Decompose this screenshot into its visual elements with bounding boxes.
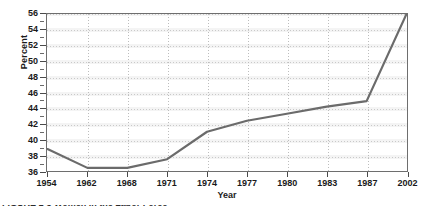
x-tick-mark [247,172,248,177]
y-axis-tick-labels: 3638404244464850525456 [18,13,38,172]
x-tick-label: 1977 [237,178,257,188]
x-axis-title: Year [46,190,408,200]
line-series [47,14,407,171]
series-polyline [47,14,406,168]
y-tick-label: 40 [28,135,38,145]
y-tick-mark-minor [40,116,44,117]
x-tick-label: 1987 [357,178,377,188]
y-tick-mark-minor [40,164,44,165]
y-tick-mark-minor [40,100,44,101]
y-tick-mark-minor [40,53,44,54]
y-tick-label: 36 [28,167,38,177]
x-tick-mark [87,172,88,177]
y-tick-label: 46 [28,88,38,98]
y-tick-mark-minor [40,21,44,22]
y-tick-mark-minor [40,132,44,133]
x-tick-label: 1980 [277,178,297,188]
x-tick-label: 1983 [317,178,337,188]
y-tick-label: 50 [28,56,38,66]
figure-caption-clipped: FIGURE 1-3 Women in the Labor Force [2,205,242,213]
x-tick-label: 1971 [157,178,177,188]
y-tick-label: 54 [28,24,38,34]
x-tick-mark [47,172,48,177]
x-tick-label: 2002 [397,178,417,188]
y-tick-label: 48 [28,72,38,82]
x-axis-tick-marks [46,172,408,177]
y-tick-label: 38 [28,151,38,161]
x-axis-tick-labels: 1954196219681971197419771980198319872002 [46,178,408,190]
y-tick-label: 42 [28,119,38,129]
chart-figure: Percent 3638404244464850525456 195419621… [0,0,430,213]
x-tick-label: 1974 [197,178,217,188]
y-tick-mark-minor [40,69,44,70]
y-tick-label: 44 [28,103,38,113]
y-tick-mark-minor [40,85,44,86]
x-tick-mark [408,172,409,177]
y-tick-label: 56 [28,8,38,18]
x-tick-mark [127,172,128,177]
x-tick-mark [167,172,168,177]
y-tick-mark-minor [40,37,44,38]
x-tick-mark [367,172,368,177]
x-tick-label: 1962 [77,178,97,188]
x-tick-mark [287,172,288,177]
y-tick-mark-minor [40,148,44,149]
figure-caption-text: FIGURE 1-3 Women in the Labor Force [2,205,242,208]
y-tick-label: 52 [28,40,38,50]
x-tick-mark [327,172,328,177]
x-tick-label: 1954 [36,178,56,188]
x-tick-label: 1968 [117,178,137,188]
x-tick-mark [207,172,208,177]
plot-area [46,13,408,172]
